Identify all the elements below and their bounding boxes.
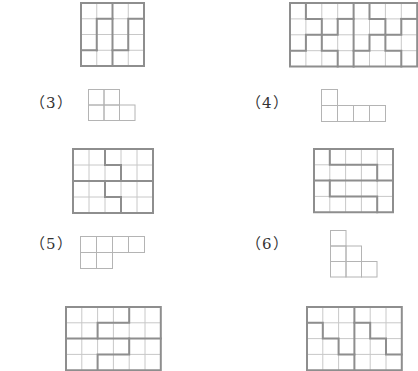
partition-grid-2 [289, 2, 418, 68]
problem-label-5: （5） [30, 232, 73, 253]
partition-grid-5 [65, 306, 162, 371]
polyomino-piece-3 [88, 89, 152, 138]
polyomino-piece-4 [321, 89, 387, 139]
polyomino-piece-5 [80, 236, 146, 286]
polyomino-piece-6 [330, 230, 394, 279]
problem-label-4: （4） [246, 91, 289, 112]
partition-grid-6 [306, 306, 403, 371]
problem-label-3: （3） [30, 91, 73, 112]
partition-grid-4 [313, 148, 394, 213]
partition-grid-3 [72, 148, 154, 214]
problem-label-6: （6） [246, 232, 289, 253]
partition-grid-1 [80, 2, 145, 67]
